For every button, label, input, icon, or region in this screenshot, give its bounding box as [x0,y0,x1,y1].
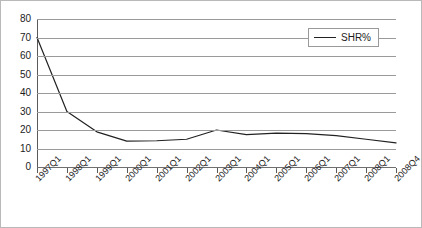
legend-line-swatch [314,37,336,38]
x-axis-tick-label: 2008Q4 [393,154,422,183]
y-axis-tick-label: 60 [3,51,31,61]
y-axis-tick-label: 30 [3,107,31,117]
y-axis-tick-label: 10 [3,144,31,154]
y-axis-tick-label: 40 [3,88,31,98]
gridline [37,149,396,150]
y-axis-tick-label: 20 [3,125,31,135]
gridline [37,130,396,131]
legend-entry-label: SHR% [341,32,371,43]
gridline [37,56,396,57]
y-axis-tick-label: 0 [3,162,31,172]
series-line [37,38,396,143]
gridline [37,75,396,76]
y-axis-tick-label: 80 [3,14,31,24]
line-chart-figure: 01020304050607080 1997Q11998Q11999Q12000… [0,0,422,228]
gridline [37,19,396,20]
gridline [37,93,396,94]
y-axis-tick-label: 50 [3,70,31,80]
gridline [37,112,396,113]
chart-legend: SHR% [308,28,379,47]
y-axis-tick-label: 70 [3,33,31,43]
